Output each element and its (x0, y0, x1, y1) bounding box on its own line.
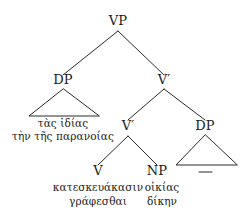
dp-left-triangle (29, 89, 99, 116)
node-dp-left: DP (53, 73, 73, 87)
leaf-dp-left-line1: τὰς ἰδίας (38, 118, 89, 129)
branch-vp-to-dp-left (63, 31, 118, 75)
branch-vbar-upper-to-vbar-lower (128, 89, 164, 120)
leaf-np-line2: δίκην (147, 196, 177, 207)
syntax-tree-diagram: VP DP V′ V′ DP V NP τὰς ἰδίας τὴν τῆς πα… (0, 0, 248, 222)
node-np: NP (147, 164, 168, 178)
node-vbar-lower: V′ (122, 119, 135, 133)
leaf-dp-left-line2: τὴν τῆς παρανοίας (12, 131, 114, 142)
node-dp-right: DP (195, 119, 215, 133)
leaf-np-line1: οἰκίας (145, 182, 180, 193)
node-vp: VP (109, 14, 128, 28)
branch-vp-to-vbar-upper (118, 31, 164, 75)
dp-right-triangle (176, 135, 237, 165)
leaf-v-line2: γράφεσθαι (69, 196, 127, 207)
node-vbar-upper: V′ (158, 73, 171, 87)
node-v: V (93, 164, 103, 178)
branch-vbar-upper-to-dp-right (164, 89, 205, 120)
leaf-v-line1: κατεσκευάκασιν (53, 182, 143, 193)
branch-vbar-lower-to-np (128, 136, 157, 165)
